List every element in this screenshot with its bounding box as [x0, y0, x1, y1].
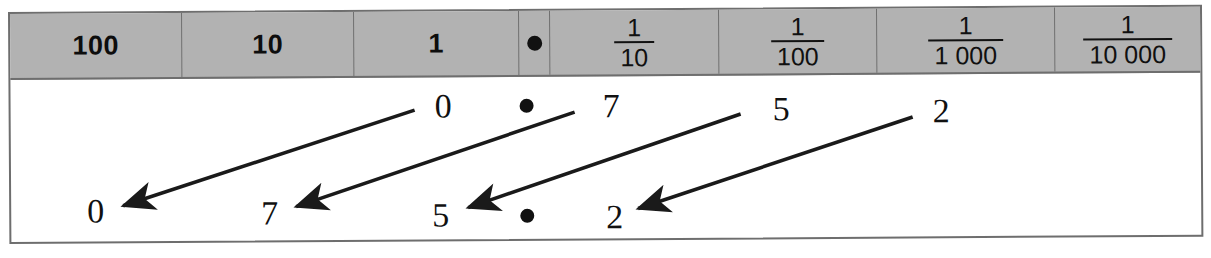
- fraction-numerator: 1: [953, 12, 979, 39]
- arrow-hundredths-to-ones: [468, 114, 742, 208]
- fraction-one-thousandth: 1 1 000: [928, 12, 1003, 69]
- arrow-tenths-to-tens: [296, 112, 576, 207]
- header-label-tens: 10: [252, 29, 283, 60]
- bottom-row-digit-ones: 5: [432, 198, 449, 232]
- header-cell-tens: 10: [182, 12, 354, 77]
- header-cell-decimal-point: [519, 11, 550, 75]
- decimal-point-icon: [527, 35, 542, 50]
- header-cell-ones: 1: [354, 11, 519, 76]
- top-row-digit-thousandths: 2: [933, 94, 950, 128]
- top-row-digit-tenths: 7: [602, 89, 619, 123]
- bottom-row-digit-tens: 7: [261, 196, 278, 230]
- fraction-numerator: 1: [621, 14, 647, 41]
- fraction-denominator: 10 000: [1083, 38, 1172, 68]
- bottom-row-digit-tenths: 2: [606, 200, 623, 234]
- table-header-row: 100 10 1 1 10 1 100: [10, 7, 1200, 80]
- place-value-table: 100 10 1 1 10 1 100: [8, 5, 1203, 244]
- fraction-one-tenth: 1 10: [614, 14, 654, 71]
- header-cell-thousandths: 1 1 000: [877, 8, 1055, 73]
- header-cell-hundreds: 100: [10, 13, 182, 78]
- top-row-decimal-point-icon: [520, 99, 534, 113]
- fraction-numerator: 1: [1115, 11, 1141, 38]
- bottom-row-digit-hundreds: 0: [87, 194, 104, 228]
- fraction-one-hundredth: 1 100: [771, 13, 825, 70]
- place-value-chart: 100 10 1 1 10 1 100: [0, 0, 1211, 258]
- fraction-numerator: 1: [785, 13, 811, 40]
- fraction-one-ten-thousandth: 1 10 000: [1083, 11, 1172, 68]
- header-label-hundreds: 100: [72, 30, 119, 61]
- fraction-denominator: 100: [771, 40, 825, 70]
- header-cell-hundredths: 1 100: [719, 9, 877, 74]
- header-label-ones: 1: [428, 28, 444, 59]
- arrow-thousandths-to-tenths: [638, 117, 914, 209]
- header-cell-tenths: 1 10: [550, 10, 719, 75]
- table-body: 0 7 5 2 0 7 5 2: [10, 73, 1201, 242]
- fraction-denominator: 1 000: [928, 39, 1003, 69]
- top-row-digit-ones: 0: [434, 89, 451, 123]
- arrow-ones-to-hundreds: [123, 110, 416, 206]
- top-row-digit-hundredths: 5: [773, 92, 790, 126]
- fraction-denominator: 10: [614, 41, 654, 70]
- header-cell-ten-thousandths: 1 10 000: [1055, 7, 1200, 72]
- bottom-row-decimal-point-icon: [520, 209, 534, 223]
